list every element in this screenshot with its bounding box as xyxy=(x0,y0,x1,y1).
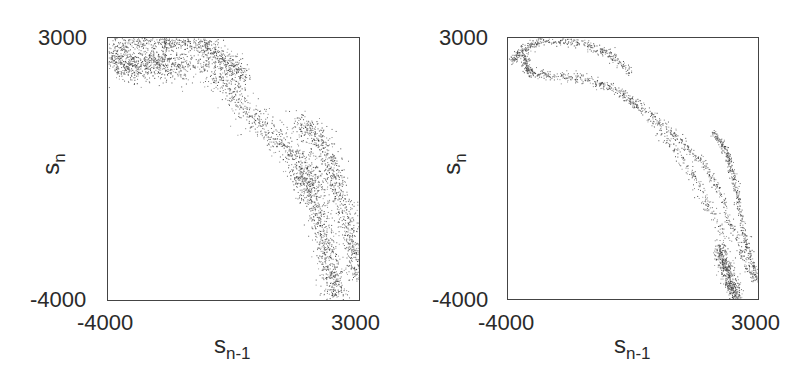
x-tick-left: -4000 xyxy=(77,312,133,334)
y-axis-label: sn xyxy=(37,153,65,174)
x-tick-left: -4000 xyxy=(478,312,534,334)
x-tick-right: 3000 xyxy=(731,312,780,334)
x-axis-label: sn-1 xyxy=(614,331,651,359)
y-axis-label-sub: n xyxy=(50,153,69,162)
right-panel: 3000 -4000 -4000 3000 sn sn-1 xyxy=(400,0,800,380)
scatter-plot-right xyxy=(507,37,759,300)
y-axis-label: sn xyxy=(438,153,466,174)
x-axis-label: sn-1 xyxy=(214,331,251,359)
x-axis-label-main: s xyxy=(214,331,226,358)
y-axis-label-sub: n xyxy=(451,153,470,162)
left-panel: 3000 -4000 -4000 3000 sn sn-1 xyxy=(0,0,400,380)
y-tick-bottom: -4000 xyxy=(30,289,86,311)
scatter-points-left xyxy=(108,38,359,300)
x-tick-right: 3000 xyxy=(331,312,380,334)
scatter-plot-left xyxy=(107,37,360,301)
x-axis-label-sub: n-1 xyxy=(626,344,651,363)
y-tick-top: 3000 xyxy=(38,27,87,49)
y-tick-bottom: -4000 xyxy=(432,289,488,311)
y-axis-label-main: s xyxy=(438,163,465,175)
x-axis-label-main: s xyxy=(614,331,626,358)
x-axis-label-sub: n-1 xyxy=(226,344,251,363)
y-tick-top: 3000 xyxy=(439,27,488,49)
y-axis-label-main: s xyxy=(37,163,64,175)
scatter-points-right xyxy=(508,38,758,299)
